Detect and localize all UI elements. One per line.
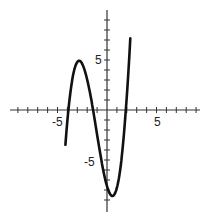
y-tick-label-pos5: 5 (95, 54, 102, 66)
chart-plot (0, 0, 208, 218)
x-tick-label-neg5: -5 (52, 116, 63, 128)
y-tick-label-neg5: -5 (84, 156, 95, 168)
x-tick-label-pos5: 5 (154, 116, 161, 128)
